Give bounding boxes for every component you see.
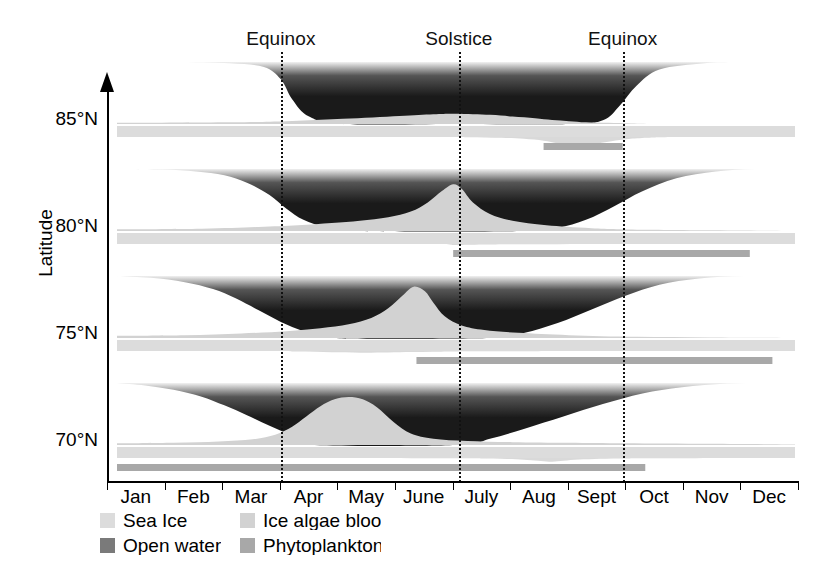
legend-item-open-water: Open water <box>100 533 232 558</box>
panel-plot-85°N <box>117 62 795 156</box>
month-tick-9 <box>625 481 626 490</box>
month-tick-5 <box>395 481 396 490</box>
month-tick-8 <box>568 481 569 490</box>
month-label-oct: Oct <box>639 486 669 508</box>
y-axis-arrow-icon <box>100 72 114 92</box>
month-tick-2 <box>222 481 223 490</box>
arctic-seasonal-figure: EquinoxSolsticeEquinox Latitude 85°N80°N… <box>0 0 828 586</box>
month-label-july: July <box>464 486 498 508</box>
phytoplankton-bloom-area <box>117 244 795 245</box>
panel-plot-70°N <box>117 383 795 477</box>
phytoplankton-duration-bar <box>416 357 772 364</box>
month-label-june: June <box>403 486 444 508</box>
month-label-may: May <box>348 486 384 508</box>
latitude-tick-80°N: 80°N <box>0 215 98 237</box>
event-line-1 <box>459 52 461 482</box>
latitude-tick-70°N: 70°N <box>0 429 98 451</box>
legend-swatch-icon <box>240 538 255 553</box>
event-line-2 <box>623 52 625 482</box>
sea-ice-band <box>117 447 795 458</box>
month-tick-4 <box>337 481 338 490</box>
sea-ice-band <box>117 126 795 137</box>
month-tick-0 <box>107 481 108 490</box>
panel-70°N <box>117 383 795 477</box>
sea-ice-band <box>117 233 795 244</box>
month-label-aug: Aug <box>522 486 556 508</box>
phytoplankton-bloom-area <box>117 137 795 146</box>
legend-label: Open water <box>123 536 221 555</box>
panel-plot-75°N <box>117 276 795 370</box>
month-tick-3 <box>280 481 281 490</box>
legend-item-phytoplankton-bloom: Phytoplankton bloom <box>240 533 381 558</box>
legend-swatch-icon <box>100 513 115 528</box>
event-label-equinox-2: Equinox <box>588 28 657 50</box>
month-label-mar: Mar <box>235 486 268 508</box>
latitude-tick-85°N: 85°N <box>0 108 98 130</box>
panel-plot-80°N <box>117 169 795 263</box>
phytoplankton-bloom-area <box>117 351 795 353</box>
ice-algae-bloom-area <box>117 184 795 231</box>
month-tick-1 <box>165 481 166 490</box>
event-line-0 <box>281 52 283 482</box>
legend-label: Sea Ice <box>123 511 187 530</box>
panel-80°N <box>117 169 795 263</box>
phytoplankton-duration-bar <box>117 464 645 471</box>
legend-item-sea-ice: Sea Ice <box>100 508 232 533</box>
month-tick-7 <box>510 481 511 490</box>
month-label-dec: Dec <box>752 486 786 508</box>
phytoplankton-bloom-area <box>117 458 795 462</box>
month-tick-12 <box>798 481 799 490</box>
panel-75°N <box>117 276 795 370</box>
month-label-feb: Feb <box>177 486 210 508</box>
phytoplankton-duration-bar <box>544 143 623 150</box>
month-label-sept: Sept <box>577 486 616 508</box>
latitude-tick-75°N: 75°N <box>0 322 98 344</box>
open-water-area <box>117 383 795 446</box>
legend-swatch-icon <box>100 538 115 553</box>
panel-85°N <box>117 62 795 156</box>
month-label-apr: Apr <box>294 486 324 508</box>
month-label-jan: Jan <box>120 486 151 508</box>
month-tick-10 <box>683 481 684 490</box>
legend: Sea IceIce algae bloomOpen waterPhytopla… <box>100 508 381 558</box>
legend-item-ice-algae-bloom: Ice algae bloom <box>240 508 381 533</box>
month-tick-6 <box>453 481 454 490</box>
event-label-solstice-1: Solstice <box>425 28 492 50</box>
month-label-nov: Nov <box>695 486 729 508</box>
sea-ice-band <box>117 340 795 351</box>
y-axis-title: Latitude <box>35 173 57 313</box>
y-axis-line <box>107 88 109 481</box>
ice-algae-bloom-area <box>117 114 795 124</box>
legend-label: Ice algae bloom <box>263 511 381 530</box>
month-tick-11 <box>740 481 741 490</box>
legend-swatch-icon <box>240 513 255 528</box>
phytoplankton-duration-bar <box>453 250 750 257</box>
legend-label: Phytoplankton bloom <box>263 536 381 555</box>
event-label-equinox-0: Equinox <box>246 28 315 50</box>
